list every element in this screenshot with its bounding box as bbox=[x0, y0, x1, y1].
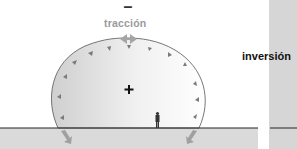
dome bbox=[51, 38, 205, 128]
pneumatic-dome-diagram bbox=[0, 0, 297, 149]
negative-sign: – bbox=[122, 0, 134, 16]
traction-label: tracción bbox=[104, 17, 146, 29]
right-panel bbox=[269, 0, 297, 149]
inversion-label: inversión bbox=[242, 50, 291, 62]
ground bbox=[0, 128, 258, 149]
